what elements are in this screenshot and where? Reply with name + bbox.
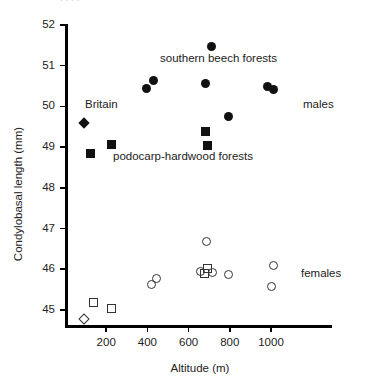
y-tick-label-47: 47 <box>33 223 55 235</box>
scatter-plot: · · · · 4546474849505152 200400600800100… <box>0 0 365 387</box>
legend-label-females: females <box>301 267 341 279</box>
x-tick-1000 <box>270 327 272 332</box>
y-tick-49 <box>60 146 65 148</box>
data-point-circle-filled-0-2 <box>207 42 216 51</box>
data-point-square-open-4-3 <box>200 269 209 278</box>
x-tick-800 <box>229 327 231 332</box>
data-point-circle-filled-0-0 <box>142 84 151 93</box>
data-point-square-filled-1-3 <box>203 141 212 150</box>
y-tick-51 <box>60 65 65 67</box>
y-tick-label-49: 49 <box>33 141 55 153</box>
x-tick-600 <box>188 327 190 332</box>
y-tick-45 <box>60 309 65 311</box>
x-tick-label-600: 600 <box>169 337 209 349</box>
data-point-circle-filled-0-6 <box>269 85 278 94</box>
data-point-circle-open-3-6 <box>269 261 278 270</box>
y-tick-48 <box>60 187 65 189</box>
y-tick-label-46: 46 <box>33 263 55 275</box>
legend-label-males: males <box>303 98 334 110</box>
x-axis-label: Altitude (m) <box>120 362 280 374</box>
x-tick-label-1000: 1000 <box>251 337 291 349</box>
data-point-square-open-4-0 <box>89 298 98 307</box>
data-point-circle-open-3-7 <box>267 282 276 291</box>
data-point-circle-filled-0-3 <box>201 79 210 88</box>
x-tick-400 <box>147 327 149 332</box>
x-tick-label-400: 400 <box>127 337 167 349</box>
y-tick-label-52: 52 <box>33 19 55 31</box>
data-point-square-open-4-1 <box>107 304 116 313</box>
data-point-circle-open-3-2 <box>202 237 211 246</box>
x-tick-label-200: 200 <box>86 337 126 349</box>
y-tick-52 <box>60 24 65 26</box>
x-tick-label-800: 800 <box>210 337 250 349</box>
data-point-square-filled-1-1 <box>107 140 116 149</box>
clipped-top-text: · · · · <box>0 0 365 8</box>
y-tick-50 <box>60 106 65 108</box>
x-tick-200 <box>105 327 107 332</box>
data-point-circle-open-3-5 <box>224 270 233 279</box>
y-tick-46 <box>60 268 65 270</box>
data-point-square-filled-1-2 <box>201 127 210 136</box>
y-tick-47 <box>60 228 65 230</box>
data-point-diamond-filled-2-0 <box>78 117 89 128</box>
data-point-circle-filled-0-1 <box>149 76 158 85</box>
y-axis-label: Condylobasal length (mm) <box>12 94 24 294</box>
y-tick-label-50: 50 <box>33 100 55 112</box>
annotation-britain: Britain <box>85 98 118 110</box>
data-point-circle-open-3-1 <box>152 274 161 283</box>
y-tick-label-51: 51 <box>33 60 55 72</box>
data-point-square-filled-1-0 <box>86 149 95 158</box>
y-tick-label-48: 48 <box>33 182 55 194</box>
y-tick-label-45: 45 <box>33 304 55 316</box>
data-point-diamond-open-5-0 <box>78 313 89 324</box>
y-axis-line <box>65 24 68 327</box>
annotation-podocarp-hardwood-forests: podocarp-hardwood forests <box>113 150 253 162</box>
data-point-circle-filled-0-4 <box>224 112 233 121</box>
annotation-southern-beech-forests: southern beech forests <box>160 52 277 64</box>
